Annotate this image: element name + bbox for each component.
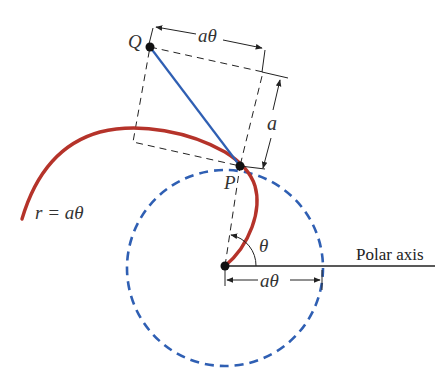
bottom-dim-label: aθ: [260, 270, 279, 291]
spiral-curve: [22, 128, 257, 266]
side-dim-arrow-down: [263, 138, 271, 168]
dashed-rectangle: [133, 47, 263, 166]
side-dim-tick-top: [262, 72, 288, 78]
side-dim-arrow-up: [273, 80, 280, 110]
polar-axis-label: Polar axis: [356, 245, 424, 264]
diagram-canvas: aθ a θ aθ Q P r = aθ Polar axis: [0, 0, 447, 385]
point-q: [146, 43, 155, 52]
top-dim-label: aθ: [198, 25, 217, 46]
angle-arc: [231, 235, 256, 266]
top-dim-arrow-right: [223, 40, 262, 48]
angle-label: θ: [259, 235, 268, 256]
label-q: Q: [128, 31, 142, 52]
segment-qp: [150, 47, 240, 166]
point-p: [236, 162, 245, 171]
label-p: P: [223, 172, 236, 193]
curve-equation-label: r = aθ: [35, 202, 84, 223]
side-dim-label: a: [267, 112, 277, 134]
origin-point: [221, 262, 230, 271]
top-dim-arrow-left: [156, 27, 196, 34]
top-dim-tick-right: [262, 50, 265, 72]
involute-diagram: aθ a θ aθ Q P r = aθ Polar axis: [0, 0, 447, 385]
